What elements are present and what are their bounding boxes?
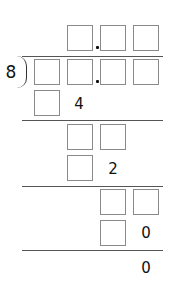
divisor: 8: [4, 63, 18, 81]
quotient-digit-box-1[interactable]: [67, 25, 93, 51]
step4-digit-box-2[interactable]: [133, 189, 159, 215]
dividend-digit-box-4[interactable]: [133, 59, 159, 85]
subtraction-line-2: [22, 186, 163, 187]
subtraction-line-1: [22, 120, 163, 121]
step4-digit-box-1[interactable]: [100, 189, 126, 215]
dividend-digit-box-3[interactable]: [100, 59, 126, 85]
subtraction-line-3: [22, 250, 163, 251]
step5-given-digit: 0: [139, 224, 153, 242]
quotient-digit-box-2[interactable]: [100, 25, 126, 51]
dividend-digit-box-2[interactable]: [67, 59, 93, 85]
step1-given-digit: 4: [72, 95, 86, 113]
step2-digit-box-2[interactable]: [100, 124, 126, 150]
dividend-digit-box-1[interactable]: [34, 59, 60, 85]
step3-digit-box[interactable]: [67, 155, 93, 181]
dividend-decimal-point: [96, 80, 99, 83]
remainder: 0: [139, 259, 153, 277]
division-bracket: [17, 56, 27, 88]
quotient-digit-box-3[interactable]: [133, 25, 159, 51]
step3-given-digit: 2: [106, 160, 120, 178]
step2-digit-box-1[interactable]: [67, 124, 93, 150]
step5-digit-box[interactable]: [100, 220, 126, 246]
quotient-decimal-point: [96, 46, 99, 49]
division-bar: [22, 56, 163, 57]
step1-digit-box[interactable]: [34, 90, 60, 116]
